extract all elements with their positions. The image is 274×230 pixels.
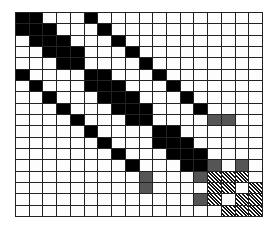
empty-cell [85,194,98,204]
empty-cell [153,92,166,102]
empty-cell [57,126,70,136]
gray-cell [208,160,221,170]
empty-cell [85,160,98,170]
black-cell [43,24,56,34]
empty-cell [181,126,194,136]
empty-cell [57,92,70,102]
empty-cell [98,172,111,182]
empty-cell [30,126,43,136]
empty-cell [181,172,194,182]
empty-cell [98,126,111,136]
black-cell [126,47,139,57]
empty-cell [85,172,98,182]
empty-cell [43,81,56,91]
empty-cell [153,13,166,23]
black-cell [57,104,70,114]
black-cell [112,36,125,46]
black-cell [30,81,43,91]
empty-cell [236,149,249,159]
hatched-cell [249,194,262,204]
empty-cell [71,126,84,136]
empty-cell [112,58,125,68]
black-cell [57,47,70,57]
black-cell [30,24,43,34]
empty-cell [208,92,221,102]
black-cell [126,115,139,125]
empty-cell [236,47,249,57]
gray-cell [236,160,249,170]
empty-cell [140,149,153,159]
empty-cell [57,206,70,216]
empty-cell [222,24,235,34]
empty-cell [208,138,221,148]
empty-cell [194,24,207,34]
black-cell [16,13,29,23]
empty-cell [98,58,111,68]
empty-cell [208,58,221,68]
empty-cell [85,36,98,46]
black-cell [85,126,98,136]
black-cell [153,70,166,80]
empty-cell [236,104,249,114]
empty-cell [153,81,166,91]
empty-cell [153,194,166,204]
empty-cell [153,160,166,170]
empty-cell [181,194,194,204]
gray-cell [194,194,207,204]
empty-cell [57,149,70,159]
empty-cell [222,92,235,102]
black-cell [126,160,139,170]
hatched-cell [208,172,221,182]
empty-cell [126,58,139,68]
black-cell [16,70,29,80]
empty-cell [16,206,29,216]
empty-cell [98,104,111,114]
empty-cell [112,13,125,23]
empty-cell [153,104,166,114]
empty-cell [167,47,180,57]
empty-cell [194,126,207,136]
empty-cell [16,92,29,102]
empty-cell [57,172,70,182]
hatched-cell [236,172,249,182]
black-cell [71,58,84,68]
empty-cell [167,183,180,193]
empty-cell [126,24,139,34]
black-cell [43,36,56,46]
empty-cell [236,138,249,148]
empty-cell [236,126,249,136]
empty-cell [167,70,180,80]
empty-cell [140,160,153,170]
empty-cell [30,149,43,159]
empty-cell [222,58,235,68]
empty-cell [181,183,194,193]
black-cell [167,149,180,159]
empty-cell [140,194,153,204]
empty-cell [57,13,70,23]
empty-cell [249,104,262,114]
black-cell [16,24,29,34]
empty-cell [16,36,29,46]
empty-cell [16,172,29,182]
empty-cell [222,126,235,136]
black-cell [85,13,98,23]
empty-cell [236,36,249,46]
black-cell [167,138,180,148]
empty-cell [112,115,125,125]
empty-cell [30,115,43,125]
empty-cell [126,183,139,193]
black-cell [112,81,125,91]
empty-cell [140,206,153,216]
black-cell [98,70,111,80]
hatched-cell [222,183,235,193]
empty-cell [71,13,84,23]
empty-cell [249,92,262,102]
empty-cell [112,172,125,182]
empty-cell [208,13,221,23]
black-cell [71,115,84,125]
empty-cell [236,13,249,23]
empty-cell [98,115,111,125]
empty-cell [112,47,125,57]
empty-cell [16,138,29,148]
black-cell [194,104,207,114]
